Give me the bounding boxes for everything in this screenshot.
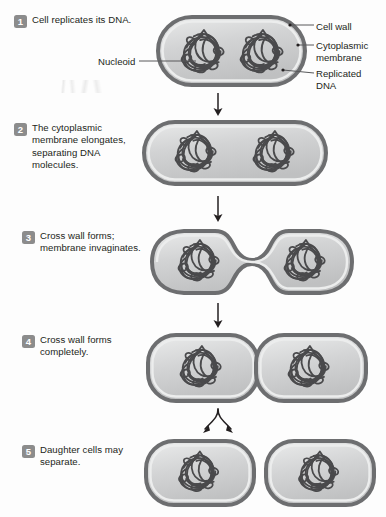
daughter-cell-left-wall <box>148 335 258 401</box>
step-4-cell <box>148 335 366 401</box>
daughter-cell-right-wall <box>256 335 366 401</box>
step-2-text: The cytoplasmic membrane elongates, sepa… <box>32 122 140 172</box>
step-1-number: 1 <box>14 15 27 28</box>
daughter-cell-left-wall <box>146 441 254 505</box>
daughter-cell-right-wall <box>266 441 374 505</box>
cell-wall-shape <box>144 122 326 184</box>
scan-artifact <box>60 80 104 93</box>
step-3-number: 3 <box>22 231 35 244</box>
callout-label-cytoplasmic-membrane: Cytoplasmic membrane <box>316 40 382 63</box>
step-4: 4 Cross wall forms completely. <box>22 334 148 359</box>
step-4-number: 4 <box>22 335 35 348</box>
step-5-cells <box>146 441 374 505</box>
step-3: 3 Cross wall forms; membrane invaginates… <box>22 230 148 255</box>
step-4-text: Cross wall forms completely. <box>40 334 148 359</box>
step-5-text: Daughter cells may separate. <box>40 444 148 469</box>
step-5-number: 5 <box>22 445 35 458</box>
callout-label-nucleoid: Nucleoid <box>98 56 135 68</box>
binary-fission-figure: 1 Cell replicates its DNA. 2 The cytopla… <box>0 0 386 517</box>
step-2-number: 2 <box>14 123 27 136</box>
step-3-text: Cross wall forms; membrane invaginates. <box>40 230 148 255</box>
callout-label-cell-wall: Cell wall <box>316 21 352 33</box>
step-1: 1 Cell replicates its DNA. <box>14 14 131 28</box>
step-1-cell <box>158 17 305 85</box>
step-5: 5 Daughter cells may separate. <box>22 444 148 469</box>
step-1-text: Cell replicates its DNA. <box>32 14 131 26</box>
callout-label-replicated-dna: Replicated DNA <box>316 68 382 91</box>
arrow-step4-to-step5-fork <box>205 409 231 429</box>
step-3-cell <box>152 231 352 293</box>
step-2-cell <box>144 122 326 184</box>
step-2: 2 The cytoplasmic membrane elongates, se… <box>14 122 140 172</box>
